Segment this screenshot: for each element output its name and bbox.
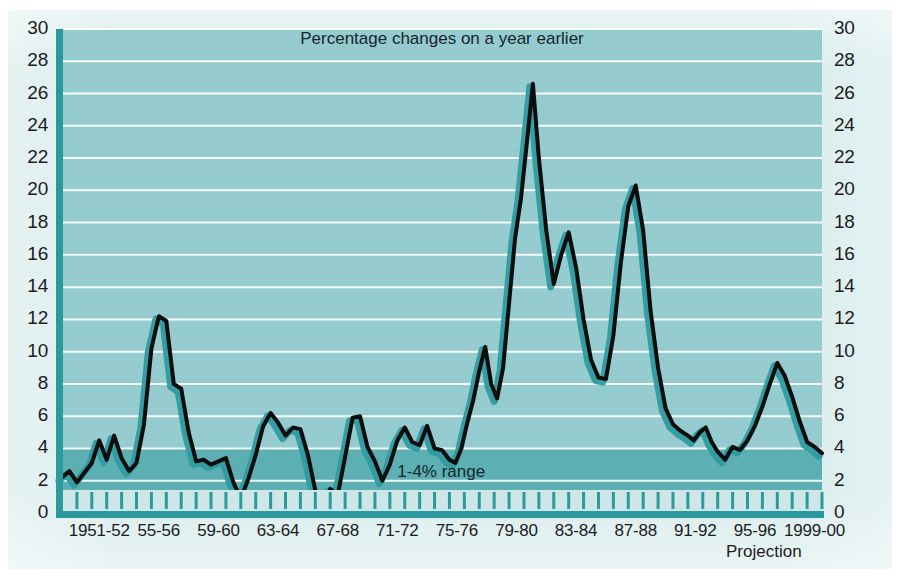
y-axis-tick-label-right: 30 [834,17,874,39]
y-axis-tick-label-right: 20 [834,178,874,200]
chart-title: Percentage changes on a year earlier [0,29,900,49]
y-axis-tick-label-right: 18 [834,211,874,233]
y-axis-tick-label-left: 30 [8,17,48,39]
y-axis-tick-label-right: 8 [834,372,874,394]
y-axis-tick-label-left: 0 [8,501,48,523]
projection-note: Projection [726,542,802,562]
y-axis-tick-label-left: 18 [8,211,48,233]
y-axis-tick-label-right: 4 [834,436,874,458]
y-axis-tick-label-left: 16 [8,243,48,265]
y-axis-tick-label-right: 28 [834,49,874,71]
y-axis-spine-left [56,29,63,518]
y-axis-tick-label-right: 6 [834,404,874,426]
y-axis-tick-label-right: 16 [834,243,874,265]
y-axis-tick-label-right: 12 [834,307,874,329]
x-axis-tick-label: 1999-00 [760,521,870,541]
x-axis-spine [56,511,824,518]
y-axis-tick-label-left: 10 [8,340,48,362]
y-axis-tick-label-left: 6 [8,404,48,426]
x-axis-ticks [0,0,900,579]
y-axis-tick-label-left: 12 [8,307,48,329]
y-axis-tick-label-left: 26 [8,82,48,104]
y-axis-tick-label-left: 4 [8,436,48,458]
y-axis-tick-label-right: 24 [834,114,874,136]
band-label-1-4-range: 1-4% range [397,462,485,482]
y-axis-tick-label-right: 0 [834,501,874,523]
y-axis-tick-label-left: 28 [8,49,48,71]
y-axis-tick-label-left: 20 [8,178,48,200]
y-axis-tick-label-left: 2 [8,469,48,491]
y-axis-tick-label-right: 2 [834,469,874,491]
y-axis-tick-label-left: 24 [8,114,48,136]
y-axis-tick-label-left: 8 [8,372,48,394]
chart-screenshot: Percentage changes on a year earlier 1-4… [0,0,900,579]
y-axis-tick-label-right: 10 [834,340,874,362]
chart-title-text: Percentage changes on a year earlier [62,29,822,49]
y-axis-tick-label-left: 22 [8,146,48,168]
y-axis-tick-label-right: 26 [834,82,874,104]
y-axis-tick-label-left: 14 [8,275,48,297]
y-axis-tick-label-right: 14 [834,275,874,297]
y-axis-tick-label-right: 22 [834,146,874,168]
